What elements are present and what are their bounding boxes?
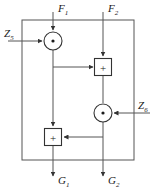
input-label-z6: Z6 (138, 99, 148, 114)
input-label-f2: F2 (107, 2, 119, 17)
multiplier-dot-top-left (51, 39, 54, 42)
input-label-z5: Z5 (4, 27, 14, 42)
output-label-g2: G2 (108, 174, 120, 189)
signal-flow-diagram: + + F1 F2 Z5 Z6 G1 G2 (0, 0, 157, 189)
adder-plus-glyph-bottom-left: + (50, 132, 56, 144)
input-label-f1: F1 (57, 2, 68, 17)
flow-graph-canvas: + + F1 F2 Z5 Z6 G1 G2 (0, 0, 157, 189)
output-label-g1: G1 (58, 174, 69, 189)
multiplier-dot-bottom-right (101, 111, 104, 114)
adder-plus-glyph-top-right: + (100, 62, 106, 74)
